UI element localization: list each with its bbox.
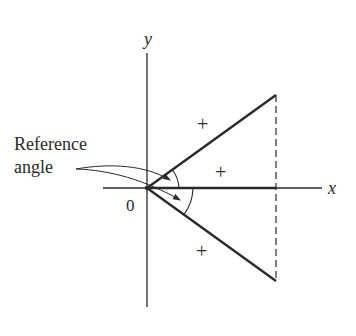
sign-upper-inner: + [215,161,226,183]
sign-upper-outer: + [197,113,208,135]
origin-point [145,186,149,190]
sign-lower: + [196,240,207,262]
lower-terminal-side [147,188,276,281]
origin-label: 0 [126,196,135,215]
upper-angle-arc [173,170,180,188]
y-axis-label: y [142,29,152,49]
upper-terminal-side [147,95,276,188]
lower-angle-arc [184,188,193,215]
reference-arrow-upper [76,166,170,180]
diagram-canvas: y x 0 Reference angle + + + [0,0,356,336]
reference-label-line1: Reference [14,134,87,154]
reference-label-line2: angle [14,157,53,177]
x-axis-label: x [327,178,336,198]
